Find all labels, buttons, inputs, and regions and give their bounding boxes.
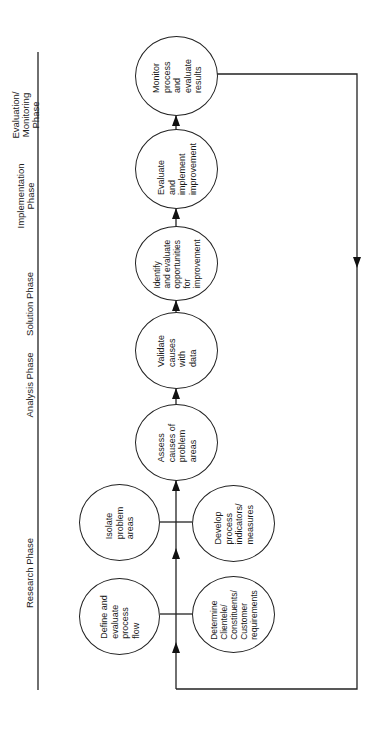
node-label: Monitor process and evaluate results xyxy=(150,59,203,93)
arrow-up-icon xyxy=(172,115,180,126)
node-determine-requirements: Determine Clientele/ Constituents/ Custo… xyxy=(192,576,275,653)
arrow-down-icon xyxy=(353,257,361,268)
node-identify-opportunities: Identify and evaluate opportunities for … xyxy=(135,226,218,301)
phase-label-implementation: Implementation Phase xyxy=(16,164,36,229)
phase-label-research: Research Phase xyxy=(25,538,35,608)
arrow-up-icon xyxy=(172,388,180,399)
node-define-process-flow: Define and evaluate process flow xyxy=(79,578,160,655)
phase-label-evaluation-monitoring: Evaluation/ Monitoring Phase xyxy=(11,91,41,138)
arrow-up-icon xyxy=(172,548,180,559)
node-develop-indicators: Develop process indicators/ measures xyxy=(192,485,275,562)
node-label: Determine Clientele/ Constituents/ Custo… xyxy=(209,590,259,640)
arrow-up-icon xyxy=(172,300,180,311)
node-assess-causes: Assess causes of problem areas xyxy=(135,404,218,481)
node-label: Isolate problem areas xyxy=(104,506,136,539)
arrow-up-icon xyxy=(172,642,180,653)
node-label: Develop process indicators/ measures xyxy=(213,503,255,544)
node-label: Identify and evaluate opportunities for … xyxy=(152,239,202,288)
phase-label-analysis: Analysis Phase xyxy=(25,353,35,418)
node-label: Validate causes with data xyxy=(156,335,198,367)
node-label: Assess causes of problem areas xyxy=(156,423,198,462)
node-evaluate-implement: Evaluate and implement improvement xyxy=(135,129,218,209)
node-label: Evaluate and implement improvement xyxy=(156,143,198,195)
node-isolate-problem-areas: Isolate problem areas xyxy=(79,484,160,561)
node-monitor-process: Monitor process and evaluate results xyxy=(135,36,218,116)
node-label: Define and evaluate process flow xyxy=(99,595,141,639)
phase-label-solution: Solution Phase xyxy=(25,272,35,336)
arrow-up-icon xyxy=(172,480,180,491)
node-validate-causes: Validate causes with data xyxy=(135,312,218,389)
arrow-up-icon xyxy=(172,208,180,219)
